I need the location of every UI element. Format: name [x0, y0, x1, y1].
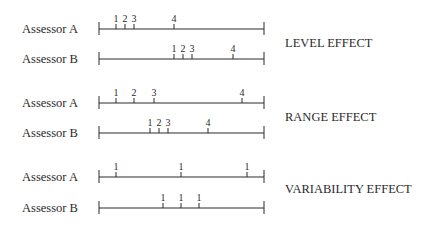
sample-number: 3 [152, 87, 157, 98]
sample-number: 1 [179, 192, 184, 203]
assessor-label: Assessor A [22, 96, 78, 110]
sample-number: 1 [245, 161, 250, 172]
assessor-label: Assessor B [22, 52, 78, 66]
assessor-scale-row: Assessor B111 [22, 192, 264, 215]
sample-number: 4 [231, 43, 236, 54]
effect-panel: Assessor A1234Assessor B1234LEVEL EFFECT [22, 13, 373, 66]
sample-number: 1 [148, 117, 153, 128]
assessor-label: Assessor A [22, 170, 78, 184]
sample-number: 4 [172, 13, 177, 24]
assessor-label: Assessor B [22, 201, 78, 215]
sample-number: 1 [197, 192, 202, 203]
sample-number: 2 [181, 43, 186, 54]
sample-number: 2 [123, 13, 128, 24]
sample-number: 1 [114, 161, 119, 172]
sample-number: 3 [166, 117, 171, 128]
sample-number: 1 [172, 43, 177, 54]
sample-number: 1 [114, 87, 119, 98]
sample-number: 2 [132, 87, 137, 98]
assessor-label: Assessor B [22, 126, 78, 140]
assessor-scale-row: Assessor B1234 [22, 117, 264, 140]
effect-panel: Assessor A111Assessor B111VARIABILITY EF… [22, 161, 412, 215]
sample-number: 4 [240, 87, 245, 98]
assessor-scale-row: Assessor B1234 [22, 43, 264, 66]
effect-label: VARIABILITY EFFECT [285, 182, 412, 196]
effect-label: LEVEL EFFECT [285, 36, 373, 50]
sample-number: 4 [206, 117, 211, 128]
assessor-scale-row: Assessor A111 [22, 161, 264, 184]
sample-number: 2 [157, 117, 162, 128]
sample-number: 1 [179, 161, 184, 172]
sample-number: 1 [161, 192, 166, 203]
sample-number: 1 [114, 13, 119, 24]
sample-number: 3 [132, 13, 137, 24]
effect-label: RANGE EFFECT [285, 110, 377, 124]
effect-panel: Assessor A1234Assessor B1234RANGE EFFECT [22, 87, 377, 140]
sample-number: 3 [190, 43, 195, 54]
assessor-label: Assessor A [22, 22, 78, 36]
assessor-effects-diagram: Assessor A1234Assessor B1234LEVEL EFFECT… [0, 0, 421, 226]
assessor-scale-row: Assessor A1234 [22, 13, 264, 36]
assessor-scale-row: Assessor A1234 [22, 87, 264, 110]
